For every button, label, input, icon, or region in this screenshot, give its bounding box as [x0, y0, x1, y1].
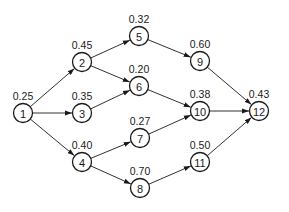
node-number-label: 3	[70, 108, 94, 120]
node-number-label: 6	[127, 81, 151, 93]
node-value-label: 0.35	[65, 90, 99, 102]
node-number-label: 2	[70, 57, 94, 69]
node-value-label: 0.60	[183, 38, 217, 50]
node-number-label: 4	[70, 157, 94, 169]
node-number-label: 8	[128, 183, 152, 195]
edge-group	[30, 40, 251, 185]
node-number-label: 10	[188, 106, 212, 118]
node-value-label: 0.50	[183, 139, 217, 151]
node-number-label: 12	[247, 106, 271, 118]
node-value-label: 0.38	[183, 88, 217, 100]
node-number-label: 11	[188, 157, 212, 169]
node-value-label: 0.32	[122, 13, 156, 25]
node-number-label: 1	[11, 108, 35, 120]
node-number-label: 7	[128, 133, 152, 145]
node-value-label: 0.40	[65, 139, 99, 151]
node-value-label: 0.45	[65, 39, 99, 51]
network-diagram: 10.2520.4530.3540.4050.3260.2070.2780.70…	[0, 0, 289, 212]
node-value-label: 0.25	[6, 90, 40, 102]
node-number-label: 5	[127, 31, 151, 43]
node-value-label: 0.70	[123, 165, 157, 177]
node-value-label: 0.20	[122, 63, 156, 75]
node-value-label: 0.27	[123, 115, 157, 127]
node-value-label: 0.43	[242, 88, 276, 100]
node-number-label: 9	[188, 56, 212, 68]
